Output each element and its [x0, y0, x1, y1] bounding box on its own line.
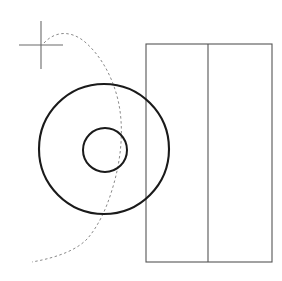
drawing-canvas: [0, 0, 282, 281]
technical-drawing-svg: [0, 0, 282, 281]
canvas-background: [0, 0, 282, 281]
